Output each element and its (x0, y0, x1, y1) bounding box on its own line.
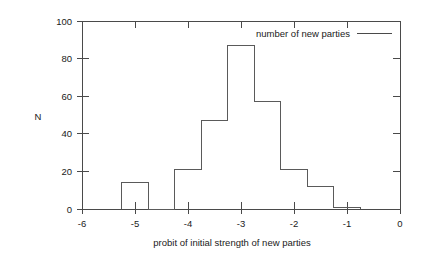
legend: number of new parties (256, 28, 392, 39)
x-axis-title: probit of initial strength of new partie… (153, 237, 311, 248)
legend-entry-label: number of new parties (256, 28, 350, 39)
axis-frame (82, 21, 400, 209)
x-tick-label: -3 (237, 218, 245, 229)
y-tick-label: 40 (61, 128, 72, 139)
y-tick-labels: 0 20 40 60 80 100 (56, 16, 72, 215)
x-tick-marks (82, 21, 400, 214)
y-tick-label: 80 (61, 53, 72, 64)
x-tick-labels: -6 -5 -4 -3 -2 -1 0 (78, 218, 403, 229)
y-tick-marks (82, 21, 400, 209)
x-tick-label: 0 (397, 218, 402, 229)
y-tick-label: 100 (56, 16, 72, 27)
x-tick-label: -4 (184, 218, 192, 229)
y-axis-title: N (35, 111, 42, 122)
histogram-outline (122, 45, 361, 209)
x-tick-label: -2 (290, 218, 298, 229)
y-tick-label: 0 (67, 204, 72, 215)
chart-canvas: 0 20 40 60 80 100 -6 -5 -4 -3 -2 -1 0 N … (0, 0, 430, 260)
y-tick-label: 20 (61, 166, 72, 177)
histogram-figure: 0 20 40 60 80 100 -6 -5 -4 -3 -2 -1 0 N … (0, 0, 430, 260)
x-tick-label: -6 (78, 218, 86, 229)
x-tick-label: -5 (131, 218, 139, 229)
y-tick-label: 60 (61, 91, 72, 102)
x-tick-label: -1 (343, 218, 351, 229)
y-tick-stubs (77, 21, 82, 209)
